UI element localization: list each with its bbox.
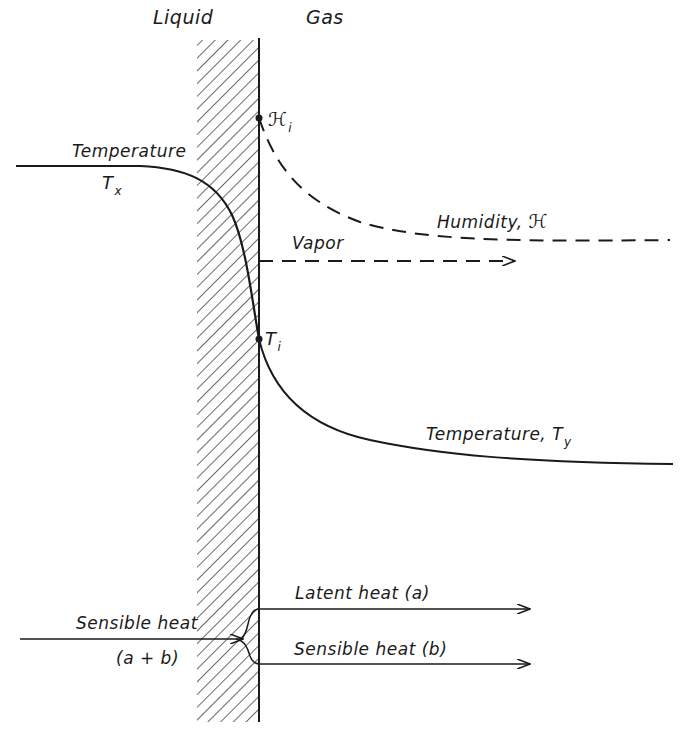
hi-symbol: ℋ	[268, 108, 287, 130]
gas-temperature-label: Temperature, Ty	[426, 424, 572, 444]
interface-humidity-point	[256, 115, 263, 122]
gas-temperature-curve	[259, 339, 673, 464]
incoming-sensible-heat-sublabel: (a + b)	[116, 648, 179, 668]
tx-subscript: x	[115, 184, 123, 198]
humidity-label: Humidity, ℋ	[437, 210, 548, 232]
liquid-temperature-symbol: Tx	[102, 172, 122, 193]
ty-symbol: T	[552, 424, 563, 444]
hi-subscript: i	[288, 121, 292, 135]
liquid-region-label: Liquid	[153, 6, 213, 28]
humidity-symbol: ℋ	[529, 210, 548, 232]
incoming-sensible-heat-label: Sensible heat	[76, 613, 198, 633]
humidity-text: Humidity,	[437, 212, 529, 232]
gas-region-label: Gas	[306, 6, 344, 28]
ty-text: Temperature,	[426, 424, 552, 444]
vapor-label: Vapor	[292, 233, 344, 253]
liquid-temperature-label: Temperature	[72, 141, 186, 161]
ty-subscript: y	[564, 435, 572, 449]
ti-subscript: i	[278, 340, 282, 354]
latent-heat-label: Latent heat (a)	[295, 583, 430, 603]
outgoing-sensible-heat-label: Sensible heat (b)	[294, 639, 447, 659]
interface-temperature-label: Ti	[265, 328, 281, 349]
interface-temperature-point	[256, 336, 263, 343]
interface-humidity-label: ℋi	[268, 108, 292, 130]
ti-symbol: T	[265, 328, 277, 349]
tx-symbol: T	[102, 172, 114, 193]
